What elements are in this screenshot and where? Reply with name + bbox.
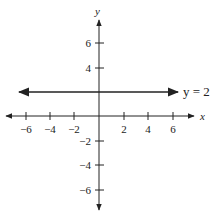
y-tick-label: −4	[79, 159, 91, 171]
x-tick-label: −2	[68, 123, 80, 135]
y-tick-label: −2	[79, 135, 91, 147]
x-tick-label: 2	[121, 123, 127, 135]
y-axis-label: y	[94, 5, 100, 17]
x-axis-label: x	[199, 110, 205, 122]
y-tick-label: −6	[79, 184, 91, 196]
y-tick-label: 6	[86, 37, 92, 49]
y-tick-label: 4	[86, 62, 92, 74]
x-tick-label: −6	[20, 123, 32, 135]
coordinate-plane: −6 −4 −2 2 4 6 6 4 −2 −4 −6 x y y = 2	[0, 0, 210, 214]
x-tick-label: 6	[170, 123, 176, 135]
x-tick-label: 4	[145, 123, 151, 135]
line-label: y = 2	[183, 84, 210, 99]
x-tick-label: −4	[44, 123, 56, 135]
